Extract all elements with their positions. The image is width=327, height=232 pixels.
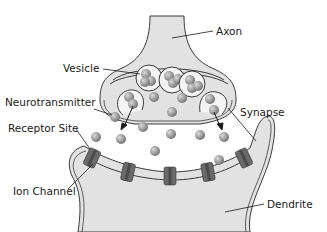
label-axon: Axon [216, 25, 242, 37]
fusing-vesicle-right [200, 92, 227, 115]
label-receptor-site: Receptor Site [8, 122, 79, 134]
vesicle-1 [136, 65, 162, 91]
synapse-diagram: Axon Vesicle Neurotransmitter Synapse Re… [0, 0, 327, 232]
label-vesicle: Vesicle [63, 62, 99, 74]
label-ion-channel: Ion Channel [13, 185, 76, 197]
label-dendrite: Dendrite [267, 198, 313, 210]
label-neurotransmitter: Neurotransmitter [5, 96, 96, 108]
label-synapse: Synapse [240, 106, 285, 118]
